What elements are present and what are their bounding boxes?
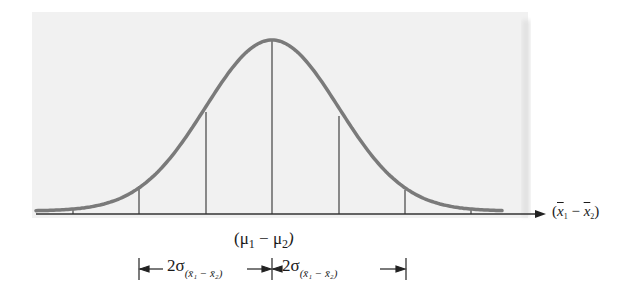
axis-arrow-icon (535, 210, 546, 218)
interval-left-label: 2σ(x̄₁ − x̄₂) (167, 256, 222, 276)
interval-right-label: 2σ(x̄₁ − x̄₂) (282, 256, 337, 276)
x-axis-label: (x1 − x2) (552, 203, 599, 220)
center-label: (μ1 − μ2) (234, 229, 294, 249)
panel-shadow (522, 20, 530, 216)
